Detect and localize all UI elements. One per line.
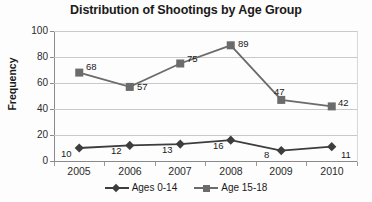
legend-item-ages-0-14[interactable]: Ages 0-14 xyxy=(105,182,178,193)
legend-label-age-15-18: Age 15-18 xyxy=(221,182,267,193)
data-label-0-14-2008: 16 xyxy=(213,140,224,151)
plot-area xyxy=(54,31,357,161)
data-label-15-18-2009: 47 xyxy=(274,86,285,97)
plot-right-border xyxy=(357,31,358,162)
y-tick-mark-40 xyxy=(50,109,54,110)
y-tick-mark-80 xyxy=(50,57,54,58)
legend-marker-square-icon xyxy=(194,183,218,193)
x-tick-label-2008: 2008 xyxy=(203,165,259,177)
data-label-15-18-2008: 89 xyxy=(238,38,249,49)
gridline-100 xyxy=(54,31,357,32)
data-label-15-18-2006: 57 xyxy=(137,81,148,92)
y-tick-mark-20 xyxy=(50,135,54,136)
gridline-40 xyxy=(54,109,357,110)
data-label-0-14-2009: 8 xyxy=(264,149,269,160)
data-label-0-14-2007: 13 xyxy=(162,144,173,155)
x-tick-label-2009: 2009 xyxy=(253,165,309,177)
legend: Ages 0-14 Age 15-18 xyxy=(0,182,372,193)
gridline-80 xyxy=(54,57,357,58)
x-tick-label-2010: 2010 xyxy=(304,165,360,177)
gridline-20 xyxy=(54,135,357,136)
y-tick-mark-60 xyxy=(50,83,54,84)
x-tick-label-2005: 2005 xyxy=(51,165,107,177)
gridline-60 xyxy=(54,83,357,84)
data-label-15-18-2010: 42 xyxy=(338,97,349,108)
y-tick-label-40: 40 xyxy=(20,103,48,114)
data-label-0-14-2005: 10 xyxy=(61,148,72,159)
data-label-0-14-2006: 12 xyxy=(111,145,122,156)
chart-container: Distribution of Shootings by Age Group F… xyxy=(0,0,372,202)
legend-label-ages-0-14: Ages 0-14 xyxy=(132,182,178,193)
data-label-15-18-2007: 75 xyxy=(187,53,198,64)
y-tick-label-20: 20 xyxy=(20,129,48,140)
y-tick-label-80: 80 xyxy=(20,51,48,62)
data-label-0-14-2010: 11 xyxy=(341,149,351,160)
y-axis-title: Frequency xyxy=(6,49,18,119)
x-tick-label-2006: 2006 xyxy=(102,165,158,177)
chart-title: Distribution of Shootings by Age Group xyxy=(0,3,372,17)
y-tick-label-0: 0 xyxy=(20,155,48,166)
y-tick-mark-100 xyxy=(50,31,54,32)
legend-marker-diamond-icon xyxy=(105,183,129,193)
data-label-15-18-2005: 68 xyxy=(86,61,97,72)
y-tick-label-100: 100 xyxy=(20,25,48,36)
x-tick-label-2007: 2007 xyxy=(152,165,208,177)
legend-item-age-15-18[interactable]: Age 15-18 xyxy=(194,182,267,193)
y-tick-label-60: 60 xyxy=(20,77,48,88)
x-axis-line xyxy=(54,161,358,162)
